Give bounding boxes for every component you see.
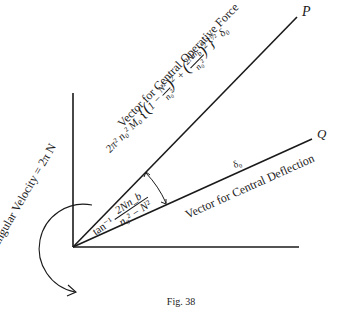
vector-p-label: P <box>302 4 311 20</box>
vector-q-label: Q <box>317 126 326 142</box>
rotation-arc <box>39 204 92 292</box>
figure-caption: Fig. 38 <box>0 296 362 307</box>
